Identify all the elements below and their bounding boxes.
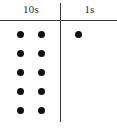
dot-ones-1 <box>75 31 82 38</box>
dot-tens-4 <box>38 50 45 57</box>
dot-tens-10 <box>38 107 45 114</box>
dot-tens-1 <box>17 31 24 38</box>
column-divider-line <box>60 3 61 122</box>
dot-tens-2 <box>38 31 45 38</box>
dot-tens-8 <box>38 88 45 95</box>
header-divider-line <box>0 20 117 21</box>
column-header-ones: 1s <box>62 1 117 17</box>
dot-tens-3 <box>17 50 24 57</box>
dot-tens-6 <box>38 69 45 76</box>
dot-tens-5 <box>17 69 24 76</box>
dot-tens-7 <box>17 88 24 95</box>
dot-tens-9 <box>17 107 24 114</box>
place-value-chart: 10s 1s <box>0 0 117 129</box>
column-header-tens: 10s <box>0 1 62 17</box>
